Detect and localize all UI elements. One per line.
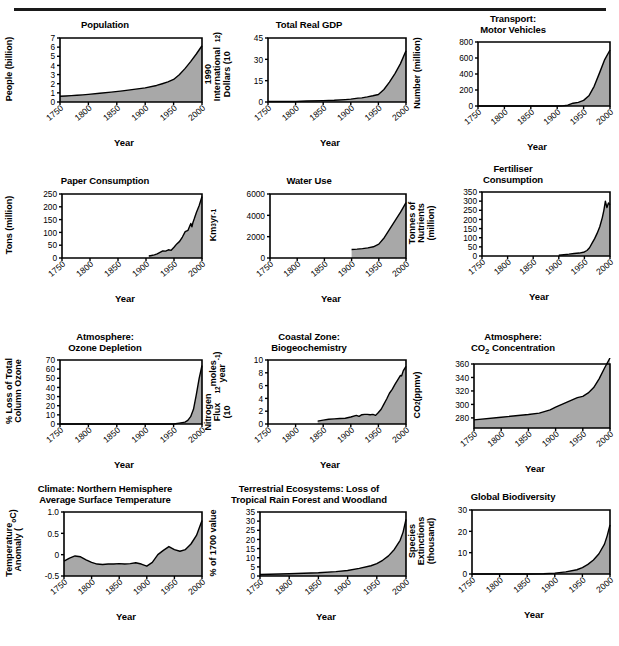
x-tick-label: 2000: [186, 258, 207, 278]
plot-area-gdp: 01530451750180018501900195020001990 Inte…: [206, 32, 412, 136]
y-axis-title-water-use: Km3 yr-1: [206, 188, 222, 262]
y-tick-label: 30: [458, 505, 468, 515]
y-tick-label: 200: [463, 215, 477, 225]
plot-area-population: 01234567175018001850190019502000People (…: [2, 32, 208, 136]
y-tick-label: 15: [254, 75, 264, 85]
plot-area-forest-loss: 05101520253035175018001850190019502000% …: [206, 506, 412, 610]
y-tick-label: 2000: [247, 231, 266, 241]
y-tick-label: 280: [455, 413, 469, 423]
plot-frame-ozone-depletion: [60, 360, 202, 424]
x-tick-label: 1800: [492, 257, 513, 277]
chart-panel-gdp: Total Real GDP01530451750180018501900195…: [206, 20, 412, 148]
x-axis-title-motor-vehicles: Year: [410, 141, 616, 152]
series-fill-motor-vehicles: [478, 50, 610, 106]
chart-grid: Population012345671750180018501900195020…: [0, 14, 619, 646]
x-tick-label: 1950: [363, 102, 384, 122]
x-tick-label: 1850: [307, 425, 328, 445]
chart-title-population: Population: [2, 20, 208, 31]
x-tick-label: 1750: [254, 258, 275, 278]
plot-area-global-biodiversity: 0102030175018001850190019502000Species E…: [410, 504, 616, 608]
y-axis-title-fertiliser-consumption: Tonnes of Nutrients(million): [410, 186, 434, 260]
y-tick-label: 10: [458, 547, 468, 557]
x-tick-label: 1950: [158, 425, 179, 445]
x-tick-label: 1850: [103, 577, 124, 597]
x-tick-label: 1800: [489, 107, 510, 127]
x-tick-label: 1900: [129, 102, 150, 122]
plot-area-motor-vehicles: 0200400600800175018001850190019502000Num…: [410, 36, 616, 140]
x-axis-title-coastal-nitrogen: Year: [206, 459, 412, 470]
x-tick-label: 1850: [307, 102, 328, 122]
y-tick-label: 20: [246, 535, 256, 545]
x-tick-label: 1900: [540, 429, 561, 449]
x-tick-label: 1900: [335, 425, 356, 445]
y-tick-label: 50: [48, 240, 58, 250]
chart-title-ozone-depletion: Atmosphere: Ozone Depletion: [2, 332, 208, 353]
y-tick-label: 320: [455, 386, 469, 396]
chart-panel-paper-consumption: Paper Consumption05010015020025017501800…: [2, 176, 208, 304]
y-tick-label: 4: [50, 60, 55, 70]
series-fill-ozone-depletion: [60, 365, 202, 424]
plot-area-ozone-depletion: 010203040506070175018001850190019502000%…: [2, 354, 208, 458]
y-tick-label: 100: [43, 227, 57, 237]
x-tick-label: 1900: [335, 102, 356, 122]
y-tick-label: 800: [459, 37, 473, 47]
x-tick-label: 1850: [513, 429, 534, 449]
y-axis-title-paper-consumption: Tons (million): [2, 188, 18, 262]
y-tick-label: -0.5: [45, 571, 60, 581]
series-fill-water-use: [352, 202, 406, 257]
x-tick-label: 1800: [273, 577, 294, 597]
x-tick-label: 1950: [158, 102, 179, 122]
chart-title-fertiliser-consumption: Fertiliser Consumption: [410, 164, 616, 185]
x-tick-label: 1850: [309, 258, 330, 278]
y-tick-label: 3: [50, 69, 55, 79]
y-tick-label: 10: [46, 410, 56, 420]
series-fill-gdp: [268, 50, 406, 101]
y-axis-title-population: People (billion): [2, 32, 18, 106]
y-tick-label: 100: [463, 233, 477, 243]
y-axis-title-gdp: 1990 InternationalDollars (1012): [206, 32, 230, 106]
y-tick-label: 15: [246, 544, 256, 554]
chart-title-global-biodiversity: Global Biodiversity: [410, 492, 616, 503]
y-tick-label: 10: [246, 553, 256, 563]
chart-panel-temperature-anomaly: Climate: Northern Hemisphere Average Sur…: [2, 484, 208, 622]
x-tick-label: 1750: [466, 257, 487, 277]
plot-svg-forest-loss: 05101520253035175018001850190019502000: [206, 506, 412, 610]
x-tick-label: 1850: [517, 257, 538, 277]
chart-title-coastal-nitrogen: Coastal Zone: Biogeochemistry: [206, 332, 412, 353]
x-tick-label: 1800: [484, 574, 505, 594]
chart-panel-fertiliser-consumption: Fertiliser Consumption050100150200250300…: [410, 164, 616, 302]
plot-area-co2-concentration: 280300320340360175018001850190019502000C…: [410, 358, 616, 462]
x-axis-title-forest-loss: Year: [206, 611, 412, 622]
series-fill-temperature-anomaly: [64, 521, 202, 576]
chart-panel-forest-loss: Terrestrial Ecosystems: Loss of Tropical…: [206, 484, 412, 622]
x-tick-label: 1950: [363, 258, 384, 278]
chart-title-paper-consumption: Paper Consumption: [2, 176, 208, 187]
x-axis-title-global-biodiversity: Year: [410, 609, 616, 620]
x-tick-label: 2000: [390, 258, 411, 278]
y-tick-label: 45: [254, 33, 264, 43]
chart-title-water-use: Water Use: [206, 176, 412, 187]
y-tick-label: 8: [258, 368, 263, 378]
chart-title-co2-concentration: Atmosphere:CO2 Concentration: [410, 332, 616, 357]
y-tick-label: 350: [463, 187, 477, 197]
chart-title-temperature-anomaly: Climate: Northern Hemisphere Average Sur…: [2, 484, 208, 505]
x-tick-label: 1950: [159, 577, 180, 597]
plot-svg-global-biodiversity: 0102030175018001850190019502000: [410, 504, 616, 608]
x-tick-label: 1950: [569, 257, 590, 277]
y-tick-label: 250: [43, 189, 57, 199]
x-tick-label: 1800: [281, 258, 302, 278]
x-tick-label: 1750: [244, 577, 265, 597]
x-tick-label: 1800: [485, 429, 506, 449]
y-tick-label: 7: [50, 33, 55, 43]
plot-svg-co2-concentration: 280300320340360175018001850190019502000: [410, 358, 616, 462]
header-divider: [14, 8, 606, 11]
y-axis-title-global-biodiversity: Species Extinctions(thousand): [410, 504, 434, 578]
y-tick-label: 250: [463, 205, 477, 215]
y-tick-label: 1: [50, 88, 55, 98]
y-tick-label: 4000: [247, 210, 266, 220]
y-tick-label: 600: [459, 53, 473, 63]
plot-area-coastal-nitrogen: 0246810175018001850190019502000Nitrogen …: [206, 354, 412, 458]
y-tick-label: 50: [468, 242, 478, 252]
x-tick-label: 1750: [252, 425, 273, 445]
x-tick-label: 1900: [131, 577, 152, 597]
